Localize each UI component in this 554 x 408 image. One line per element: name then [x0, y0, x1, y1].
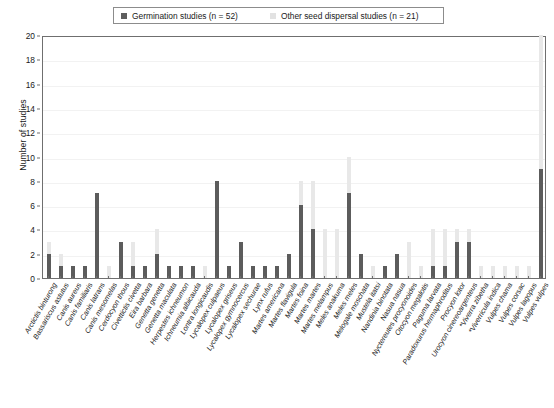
x-tick-mark [396, 276, 397, 279]
y-tick-label: 18 [0, 55, 35, 65]
x-tick-mark [204, 276, 205, 279]
x-tick-mark [540, 276, 541, 279]
x-tick-mark [408, 276, 409, 279]
y-tick-label: 10 [0, 153, 35, 163]
bar-germination-studies [299, 205, 303, 278]
y-tick-mark [37, 254, 40, 255]
plot-area [42, 36, 546, 279]
y-tick-mark [37, 206, 40, 207]
bar-other-studies [323, 229, 327, 278]
y-tick-mark [37, 279, 40, 280]
x-tick-mark [120, 276, 121, 279]
y-tick-mark [37, 84, 40, 85]
y-tick-mark [37, 230, 40, 231]
y-tick-mark [37, 60, 40, 61]
x-tick-mark [60, 276, 61, 279]
y-tick-label: 20 [0, 31, 35, 41]
bar-germination-studies [467, 242, 471, 278]
y-tick-label: 0 [0, 274, 35, 284]
x-tick-mark [372, 276, 373, 279]
x-tick-mark [156, 276, 157, 279]
y-tick-label: 12 [0, 128, 35, 138]
y-tick-label: 8 [0, 177, 35, 187]
x-axis-labels: Arctictis binturongBassariscus astutusCa… [42, 279, 546, 408]
x-tick-mark [144, 276, 145, 279]
y-tick-mark [37, 133, 40, 134]
x-tick-mark [360, 276, 361, 279]
x-tick-mark [180, 276, 181, 279]
legend-swatch-germination-icon [121, 13, 127, 19]
x-tick-mark [324, 276, 325, 279]
x-tick-mark [432, 276, 433, 279]
x-tick-mark [348, 276, 349, 279]
bar-germination-studies [155, 254, 159, 278]
bar-germination-studies [395, 254, 399, 278]
x-tick-mark [444, 276, 445, 279]
bar-germination-studies [539, 169, 543, 278]
x-tick-mark [264, 276, 265, 279]
y-tick-mark [37, 157, 40, 158]
x-tick-mark [288, 276, 289, 279]
bar-germination-studies [239, 242, 243, 278]
bar-other-studies [407, 242, 411, 278]
chart-legend: Germination studies (n = 52) Other seed … [113, 7, 444, 24]
x-tick-mark [132, 276, 133, 279]
bar-germination-studies [47, 254, 51, 278]
bar-group [43, 37, 545, 278]
legend-entry-other: Other seed dispersal studies (n = 21) [270, 11, 419, 21]
bar-germination-studies [311, 229, 315, 278]
bar-germination-studies [347, 193, 351, 278]
y-axis-ticks: 02468101214161820 [0, 36, 40, 279]
y-tick-mark [37, 108, 40, 109]
bar-germination-studies [95, 193, 99, 278]
y-tick-mark [37, 181, 40, 182]
x-tick-mark [216, 276, 217, 279]
x-tick-mark [468, 276, 469, 279]
x-tick-mark [456, 276, 457, 279]
x-tick-mark [240, 276, 241, 279]
bar-germination-studies [287, 254, 291, 278]
bar-other-studies [335, 229, 339, 278]
x-tick-mark [516, 276, 517, 279]
x-tick-mark [336, 276, 337, 279]
x-tick-mark [108, 276, 109, 279]
y-tick-label: 16 [0, 80, 35, 90]
x-tick-mark [252, 276, 253, 279]
x-tick-mark [276, 276, 277, 279]
legend-label-other: Other seed dispersal studies (n = 21) [281, 11, 419, 21]
x-tick-mark [48, 276, 49, 279]
x-tick-mark [96, 276, 97, 279]
y-tick-mark [37, 36, 40, 37]
legend-swatch-other-icon [270, 13, 276, 19]
y-tick-label: 2 [0, 250, 35, 260]
bar-germination-studies [215, 181, 219, 278]
x-tick-mark [384, 276, 385, 279]
x-tick-mark [72, 276, 73, 279]
bar-germination-studies [119, 242, 123, 278]
legend-entry-germination: Germination studies (n = 52) [121, 11, 238, 21]
x-tick-mark [192, 276, 193, 279]
x-tick-mark [300, 276, 301, 279]
x-tick-mark [228, 276, 229, 279]
y-tick-label: 4 [0, 225, 35, 235]
x-tick-mark [312, 276, 313, 279]
x-tick-mark [168, 276, 169, 279]
bar-germination-studies [455, 242, 459, 278]
legend-label-germination: Germination studies (n = 52) [132, 11, 238, 21]
x-tick-mark [84, 276, 85, 279]
x-tick-mark [492, 276, 493, 279]
y-tick-label: 14 [0, 104, 35, 114]
x-tick-mark [528, 276, 529, 279]
x-tick-mark [420, 276, 421, 279]
y-tick-label: 6 [0, 201, 35, 211]
bar-germination-studies [359, 254, 363, 278]
x-tick-mark [480, 276, 481, 279]
x-tick-mark [504, 276, 505, 279]
